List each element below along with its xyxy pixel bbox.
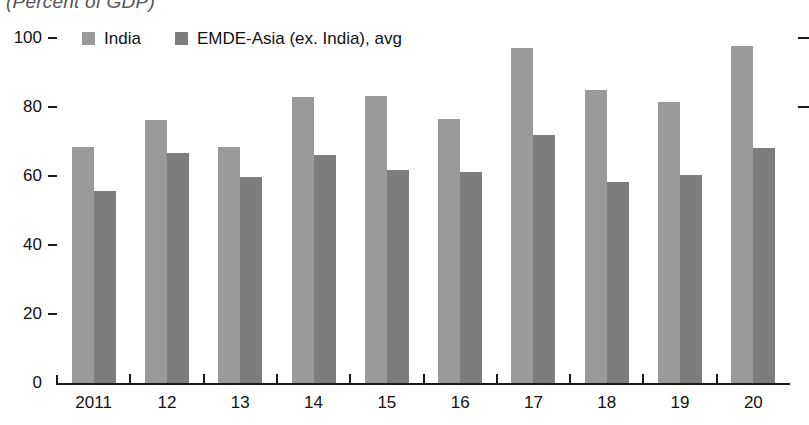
- y-axis-tick-mark: [48, 313, 57, 315]
- bar-emde-asia-2011: [94, 191, 116, 383]
- x-axis-separator-tick: [203, 374, 205, 383]
- bar-india-2011: [72, 147, 94, 383]
- x-axis-separator-tick: [423, 374, 425, 383]
- x-axis-separator-tick: [349, 374, 351, 383]
- y-axis-tick-label: 0: [10, 373, 42, 393]
- bar-emde-asia-20: [753, 148, 775, 383]
- bar-india-18: [585, 90, 607, 383]
- bar-emde-asia-19: [680, 175, 702, 383]
- y-axis-tick-mark: [48, 37, 57, 39]
- x-axis-label-14: 14: [304, 393, 323, 413]
- x-axis-label-17: 17: [524, 393, 543, 413]
- y-axis-tick-80: 80: [10, 97, 57, 117]
- x-axis-separator-tick: [716, 374, 718, 383]
- x-axis-label-18: 18: [597, 393, 616, 413]
- y-axis-tick-label: 20: [10, 304, 42, 324]
- y-axis-tick-40: 40: [10, 235, 57, 255]
- x-axis-label-20: 20: [744, 393, 763, 413]
- bar-india-17: [511, 48, 533, 383]
- x-axis-label-12: 12: [157, 393, 176, 413]
- y-axis-tick-60: 60: [10, 166, 57, 186]
- chart-container: (Percent of GDP) India EMDE-Asia (ex. In…: [0, 0, 809, 425]
- y-axis-tick-label: 40: [10, 235, 42, 255]
- right-axis-tick-100: [798, 37, 809, 39]
- bar-emde-asia-12: [167, 153, 189, 383]
- x-axis-label-13: 13: [231, 393, 250, 413]
- plot-area: 020406080100: [57, 38, 790, 383]
- x-axis-separator-tick: [276, 374, 278, 383]
- bar-india-16: [438, 119, 460, 383]
- y-axis-tick-mark: [48, 244, 57, 246]
- bar-india-15: [365, 96, 387, 383]
- y-axis-tick-20: 20: [10, 304, 57, 324]
- y-axis-tick-100: 100: [10, 28, 57, 48]
- x-axis-separator-tick: [129, 374, 131, 383]
- bar-emde-asia-18: [607, 182, 629, 383]
- bar-emde-asia-14: [314, 155, 336, 383]
- y-axis-tick-label: 60: [10, 166, 42, 186]
- y-axis-tick-mark: [48, 382, 57, 384]
- y-axis-tick-mark: [48, 106, 57, 108]
- x-axis-labels: 2011121314151617181920: [57, 385, 790, 415]
- y-axis-tick-0: 0: [10, 373, 57, 393]
- chart-subtitle: (Percent of GDP): [6, 0, 155, 13]
- bar-emde-asia-13: [240, 177, 262, 383]
- bar-india-19: [658, 102, 680, 383]
- bar-india-14: [292, 97, 314, 383]
- x-axis-separator-tick: [569, 374, 571, 383]
- bar-india-12: [145, 120, 167, 383]
- y-axis-tick-label: 100: [10, 28, 42, 48]
- x-axis-label-16: 16: [451, 393, 470, 413]
- bar-emde-asia-15: [387, 170, 409, 383]
- bar-india-13: [218, 147, 240, 383]
- y-axis-tick-mark: [48, 175, 57, 177]
- x-axis-separator-tick: [496, 374, 498, 383]
- x-axis-label-15: 15: [377, 393, 396, 413]
- x-axis-separator-tick: [642, 374, 644, 383]
- bar-emde-asia-16: [460, 172, 482, 383]
- x-axis-label-2011: 2011: [75, 393, 112, 413]
- x-axis-label-19: 19: [671, 393, 690, 413]
- y-axis-tick-label: 80: [10, 97, 42, 117]
- bar-india-20: [731, 46, 753, 383]
- right-axis-tick-80: [798, 106, 809, 108]
- bar-emde-asia-17: [533, 135, 555, 383]
